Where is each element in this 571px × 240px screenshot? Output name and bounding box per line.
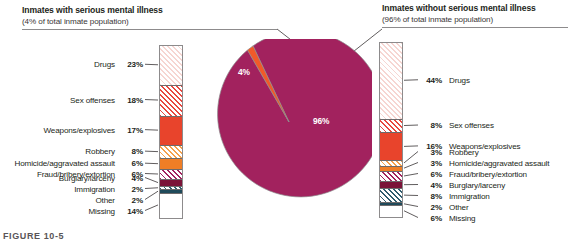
left-label-burglary-larceny: Burglary/larceny 4% [59, 174, 143, 183]
right-panel-subtitle: (96% of total inmate population) [382, 14, 568, 25]
left-label-sex-offenses: Sex offenses 18% [70, 96, 143, 105]
left-label-name: Missing [89, 207, 115, 216]
right-panel-title: Inmates without serious mental illness [382, 3, 568, 14]
left-label-name: Sex offenses [70, 96, 115, 105]
left-label-missing: Missing 14% [89, 207, 144, 216]
left-label-homicide-aggravated-assault: Homicide/aggravated assault 6% [15, 159, 143, 168]
right-stacked-bar [379, 42, 403, 218]
bar-segment-robbery [160, 146, 182, 160]
right-panel-header: Inmates without serious mental illness (… [382, 3, 568, 28]
right-label-value: 8% [420, 121, 442, 130]
right-label-fraud-bribery-extortion: 6%Fraud/bribery/extortion [420, 170, 527, 179]
right-label-name: Other [449, 203, 469, 212]
right-label-value: 3% [420, 159, 442, 168]
right-label-homicide-aggravated-assault: 3%Homicide/aggravated assault [420, 159, 549, 168]
right-label-name: Missing [449, 214, 475, 223]
right-label-name: Sex offenses [449, 121, 494, 130]
bar-segment-sex-offenses [380, 120, 402, 134]
right-leader-2 [404, 146, 418, 147]
right-leader-8 [404, 204, 418, 207]
left-label-value: 23% [117, 60, 143, 69]
figure-canvas: Inmates with serious mental illness (4% … [0, 0, 571, 240]
left-label-name: Burglary/larceny [59, 174, 115, 183]
bar-segment-missing [380, 206, 402, 216]
left-label-value: 17% [117, 126, 143, 135]
left-label-name: Other [95, 196, 115, 205]
left-leader-0 [145, 64, 158, 65]
bar-segment-weapons-explosives [160, 117, 182, 146]
bar-segment-drugs [380, 43, 402, 120]
right-label-name: Immigration [449, 192, 490, 201]
right-leader-5 [404, 174, 418, 176]
left-stacked-bar [159, 45, 183, 219]
right-leader-0 [404, 80, 418, 81]
pie-chart: 96% 4% [206, 39, 372, 205]
left-leader-8 [145, 191, 158, 199]
left-label-weapons-explosives: Weapons/explosives 17% [44, 126, 144, 135]
bar-segment-homicide-aggravated-assault [160, 159, 182, 169]
pie-label-4: 4% [238, 67, 250, 77]
right-label-name: Fraud/bribery/extortion [449, 170, 527, 179]
bar-segment-burglary-larceny [160, 180, 182, 187]
right-panel-rule [382, 27, 568, 28]
left-label-name: Drugs [94, 60, 115, 69]
left-label-value: 2% [117, 196, 143, 205]
bar-segment-weapons-explosives [380, 133, 402, 161]
right-label-immigration: 8%Immigration [420, 192, 490, 201]
left-label-name: Weapons/explosives [44, 126, 115, 135]
left-label-drugs: Drugs 23% [94, 60, 143, 69]
right-leader-4 [404, 163, 418, 169]
right-leader-9 [404, 211, 418, 218]
right-label-value: 3% [420, 148, 442, 157]
right-label-sex-offenses: 8%Sex offenses [420, 121, 494, 130]
pie-slice-without-mental-illness [218, 39, 372, 197]
right-label-burglary-larceny: 4%Burglary/larceny [420, 181, 505, 190]
left-panel-header: Inmates with serious mental illness (4% … [22, 5, 277, 30]
figure-caption: FIGURE 10-5 [3, 231, 64, 240]
right-leader-1 [404, 125, 418, 126]
left-label-value: 18% [117, 96, 143, 105]
left-label-value: 6% [117, 159, 143, 168]
right-label-drugs: 44%Drugs [420, 76, 470, 85]
left-label-name: Homicide/aggravated assault [15, 159, 115, 168]
bar-segment-immigration [380, 189, 402, 203]
left-label-robbery: Robbery 8% [85, 147, 143, 156]
pie-svg [206, 39, 372, 205]
right-label-value: 4% [420, 181, 442, 190]
left-label-value: 8% [117, 147, 143, 156]
left-panel-subtitle: (4% of total inmate population) [22, 16, 277, 27]
right-label-value: 6% [420, 214, 442, 223]
left-leader-3 [145, 151, 158, 152]
left-panel-rule [22, 29, 277, 30]
right-label-name: Homicide/aggravated assault [449, 159, 549, 168]
bar-segment-sex-offenses [160, 86, 182, 117]
right-label-value: 2% [420, 203, 442, 212]
bar-segment-missing [160, 194, 182, 218]
left-label-name: Immigration [74, 185, 115, 194]
right-label-name: Robbery [449, 148, 479, 157]
bar-segment-burglary-larceny [380, 182, 402, 189]
left-leader-6 [145, 178, 158, 183]
left-label-name: Robbery [85, 147, 115, 156]
left-leader-7 [145, 188, 158, 189]
right-leader-3 [404, 152, 418, 163]
pie-label-96: 96% [313, 116, 329, 126]
left-panel-title: Inmates with serious mental illness [22, 5, 277, 16]
left-label-immigration: Immigration 2% [74, 185, 143, 194]
bar-segment-drugs [160, 46, 182, 86]
right-label-robbery: 3%Robbery [420, 148, 479, 157]
left-leader-5 [145, 174, 158, 175]
left-label-value: 2% [117, 185, 143, 194]
bar-segment-fraud-bribery-extortion [160, 170, 182, 180]
right-label-other: 2%Other [420, 203, 469, 212]
bar-segment-fraud-bribery-extortion [380, 172, 402, 182]
left-leader-4 [145, 163, 158, 164]
left-label-value: 14% [117, 207, 143, 216]
right-label-value: 6% [420, 170, 442, 179]
right-label-value: 8% [420, 192, 442, 201]
right-label-name: Drugs [449, 76, 470, 85]
left-label-value: 4% [117, 174, 143, 183]
left-leader-9 [145, 205, 158, 211]
right-label-value: 44% [420, 76, 442, 85]
left-leader-1 [145, 100, 158, 101]
